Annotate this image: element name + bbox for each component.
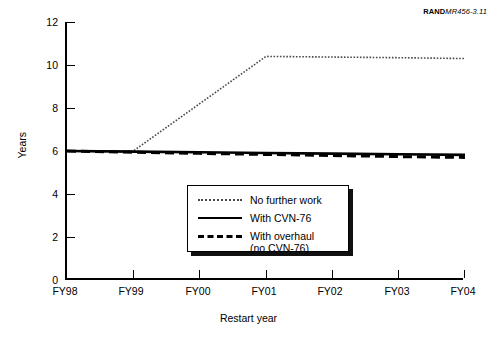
chart-figure: RANDMR456-3.11 Years 12 10 8 6 4 2 0 FY9… (0, 0, 497, 343)
legend-swatch-dotted-icon (198, 199, 242, 211)
y-tick-label-4: 4 (22, 189, 58, 200)
rand-credit: RANDMR456-3.11 (423, 8, 487, 16)
series-line-no-further-work (67, 56, 465, 151)
legend-entry-no-further-work: No further work (198, 195, 322, 207)
y-tick-label-2: 2 (22, 232, 58, 243)
legend-label-no-further-work: No further work (250, 195, 322, 207)
legend-entry-with-overhaul: With overhaul (no CVN-76) (198, 231, 314, 254)
rand-brand-label: RAND (423, 7, 445, 16)
y-tick-label-12: 12 (22, 17, 58, 28)
y-tick-label-10: 10 (22, 60, 58, 71)
legend-entry-with-cvn76: With CVN-76 (198, 213, 311, 225)
x-tick-label-fy01: FY01 (237, 286, 291, 297)
y-tick-label-8: 8 (22, 103, 58, 114)
x-tick-label-fy02: FY02 (303, 286, 357, 297)
legend-label-with-cvn76: With CVN-76 (250, 213, 311, 225)
legend-swatch-dashed-icon (198, 235, 242, 248)
legend-swatch-solid-icon (198, 217, 242, 229)
chart-legend: No further work With CVN-76 With overhau… (187, 185, 349, 252)
x-tick-label-fy99: FY99 (104, 286, 158, 297)
x-tick-label-fy98: FY98 (38, 286, 92, 297)
x-axis-title: Restart year (0, 313, 497, 324)
y-tick-label-6: 6 (22, 146, 58, 157)
legend-label-with-overhaul: With overhaul (no CVN-76) (250, 231, 314, 254)
y-tick-label-0: 0 (22, 275, 58, 286)
rand-code-label: MR456-3.11 (445, 7, 487, 16)
x-tick-label-fy00: FY00 (171, 286, 225, 297)
x-tick-label-fy04: FY04 (436, 286, 490, 297)
x-tick-label-fy03: FY03 (370, 286, 424, 297)
